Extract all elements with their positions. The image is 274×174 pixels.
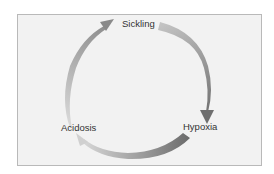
node-label-hypoxia: Hypoxia bbox=[183, 122, 217, 132]
node-label-sickling: Sickling bbox=[122, 19, 155, 29]
node-label-acidosis: Acidosis bbox=[61, 123, 96, 133]
arrow-acidosis-to-sickling bbox=[65, 19, 114, 128]
arrow-sickling-to-hypoxia bbox=[158, 22, 214, 124]
arrow-hypoxia-to-acidosis bbox=[76, 133, 190, 159]
